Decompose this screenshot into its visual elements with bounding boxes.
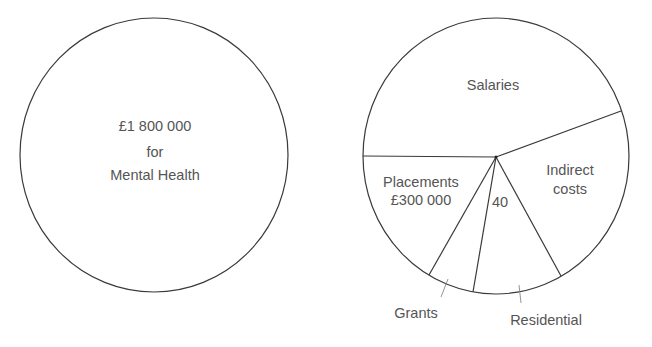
indirect-costs-label-2: costs [553, 181, 587, 197]
residential-label: Residential [510, 312, 582, 328]
divider-salaries-placements [363, 156, 496, 157]
figure: £1 800 000 for Mental Health Salaries In… [0, 0, 652, 347]
breakdown-pie: Salaries Indirect costs Placements £300 … [363, 18, 629, 328]
total-budget-pie: £1 800 000 for Mental Health [20, 18, 288, 292]
grants-label: Grants [394, 305, 438, 321]
indirect-costs-label-1: Indirect [546, 162, 594, 178]
placements-label: Placements [383, 174, 459, 190]
total-amount-label: £1 800 000 [119, 118, 192, 134]
pie-center-dot [495, 156, 498, 159]
mental-health-label: Mental Health [110, 167, 199, 183]
salaries-label: Salaries [467, 77, 519, 93]
placements-value-label: £300 000 [391, 192, 451, 208]
divider-salaries-indirect [496, 111, 621, 157]
residential-leader-line [519, 285, 521, 303]
residential-number-label: 40 [492, 194, 508, 210]
for-label: for [147, 144, 164, 160]
